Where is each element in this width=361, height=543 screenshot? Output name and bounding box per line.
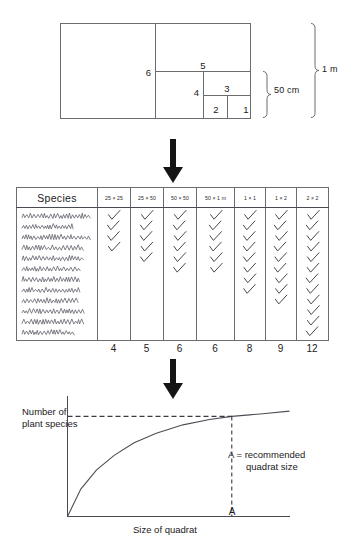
annotation-line-2: quadrat size — [228, 461, 348, 473]
total-count-6: 9 — [265, 343, 296, 354]
check-column-2 — [131, 208, 164, 341]
checkmark-icon — [307, 210, 319, 219]
checkmark-icon — [210, 210, 222, 219]
checkmark-column — [134, 210, 160, 337]
species-name-scribble — [22, 224, 73, 229]
check-column-6 — [266, 208, 297, 341]
checkmark-icon — [244, 232, 256, 241]
species-name-list — [17, 208, 98, 341]
dimension-label-50cm: 50 cm — [274, 85, 300, 95]
checkmark-icon — [244, 263, 256, 272]
checkmark-column — [101, 210, 127, 337]
checkmark-icon — [245, 210, 257, 219]
checkmark-icon — [175, 210, 187, 219]
check-column-7 — [297, 208, 329, 341]
checkmark-icon — [174, 232, 186, 241]
species-name-scribble — [22, 213, 90, 218]
column-header-quadrat-size-7: 2 × 2 — [297, 188, 329, 208]
quadrat-diagram-svg: 1 2 3 4 5 6 — [0, 0, 361, 135]
checkmark-icon — [142, 210, 154, 219]
species-name-scribble — [22, 245, 83, 251]
checkmark-icon — [174, 253, 186, 262]
checkmark-icon — [243, 242, 255, 251]
species-name-scribble — [22, 308, 84, 313]
checkmark-icon — [276, 210, 288, 219]
quadrat-cell-label-1: 1 — [243, 104, 248, 115]
column-header-quadrat-size-5: 1 × 1 — [235, 188, 266, 208]
species-name-scribble — [22, 329, 74, 334]
checkmark-icon — [307, 263, 319, 272]
checkmark-icon — [307, 242, 319, 251]
total-count-5: 8 — [234, 343, 265, 354]
checkmark-icon — [306, 274, 318, 283]
brace-50cm — [263, 72, 271, 118]
check-column-3 — [164, 208, 197, 341]
figure-root: 1 2 3 4 5 6 50 cm 1 m — [0, 0, 361, 543]
total-count-2: 5 — [130, 343, 163, 354]
checkmark-column — [300, 210, 326, 337]
checkmark-icon — [209, 242, 220, 251]
species-name-scribble — [22, 298, 78, 304]
checkmark-icon — [140, 221, 152, 230]
column-header-quadrat-size-3: 50 × 50 — [164, 188, 197, 208]
table-body-row — [17, 208, 329, 341]
dimension-label-1m: 1 m — [322, 64, 338, 74]
species-name-scribble — [22, 266, 80, 271]
column-header-quadrat-size-4: 50 × 1 m — [197, 188, 235, 208]
checkmark-icon — [276, 274, 288, 283]
column-header-quadrat-size-2: 25 × 50 — [131, 188, 164, 208]
column-header-quadrat-size-6: 1 × 2 — [266, 188, 297, 208]
checkmark-icon — [276, 285, 288, 294]
checkmark-icon — [274, 263, 286, 272]
check-column-4 — [197, 208, 235, 341]
checkmark-icon — [107, 221, 119, 230]
species-name-scribble — [22, 319, 84, 324]
table-header-row: Species 25 × 25 25 × 50 50 × 50 50 × 1 m… — [17, 188, 329, 208]
checkmark-icon — [306, 221, 318, 230]
checkmark-icon — [210, 253, 222, 262]
column-header-quadrat-size-1: 25 × 25 — [98, 188, 131, 208]
checkmark-column — [203, 210, 229, 337]
checkmark-icon — [108, 242, 120, 251]
checkmark-icon — [244, 274, 256, 283]
checkmark-icon — [307, 306, 319, 315]
brace-1m — [311, 24, 319, 118]
total-count-3: 6 — [163, 343, 196, 354]
species-count-totals-row: 4 5 6 6 8 9 12 — [16, 343, 328, 357]
checkmark-icon — [307, 232, 319, 241]
checkmark-icon — [243, 221, 255, 230]
checkmark-icon — [174, 263, 186, 272]
checkmark-icon — [210, 263, 222, 272]
species-name-squiggles — [21, 211, 94, 338]
checkmark-icon — [307, 253, 319, 262]
quadrat-cell-label-3: 3 — [224, 83, 229, 94]
check-column-5 — [235, 208, 266, 341]
checkmark-icon — [306, 285, 318, 294]
flow-arrow-1 — [163, 139, 183, 187]
species-area-curve-chart: Number of plant species Size of quadrat … — [0, 390, 361, 543]
check-column-1 — [98, 208, 131, 341]
checkmark-icon — [306, 327, 318, 336]
checkmark-icon — [141, 253, 153, 262]
down-arrow-icon — [163, 139, 183, 183]
species-name-scribble — [22, 277, 79, 283]
annotation-line-1: A = recommended — [228, 449, 305, 460]
checkmark-column — [237, 210, 263, 337]
nested-quadrat-diagram: 1 2 3 4 5 6 50 cm 1 m — [0, 0, 361, 135]
checkmark-icon — [210, 232, 222, 241]
column-header-species: Species — [17, 188, 98, 208]
checkmark-icon — [244, 285, 256, 294]
species-name-scribble — [22, 287, 80, 292]
checkmark-icon — [274, 221, 286, 230]
species-name-scribble — [22, 255, 84, 260]
checkmark-icon — [173, 221, 185, 230]
y-axis-label: Number of plant species — [22, 406, 84, 429]
x-axis-tick-A: A — [229, 506, 236, 518]
checkmark-icon — [174, 242, 186, 251]
checkmark-icon — [275, 253, 287, 262]
quadrat-cell-label-2: 2 — [213, 104, 218, 115]
checkmark-column — [268, 210, 294, 337]
x-axis-label: Size of quadrat — [133, 524, 197, 536]
checkmark-icon — [307, 295, 319, 304]
quadrat-cell-label-4: 4 — [194, 87, 199, 98]
